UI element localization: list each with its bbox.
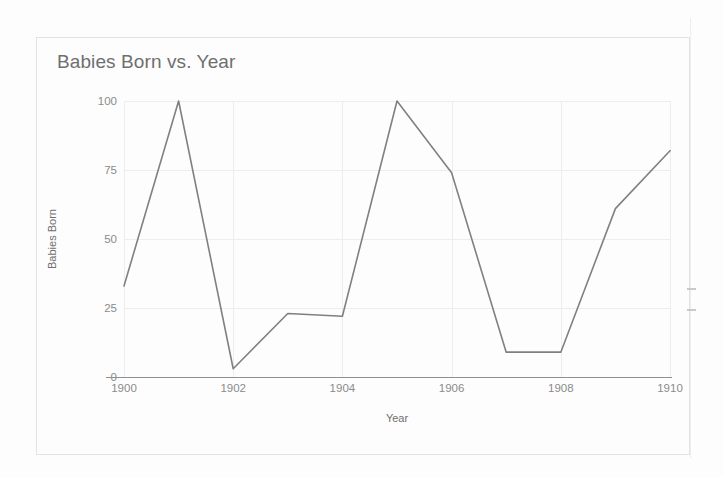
scan-tick-mark <box>687 288 696 290</box>
y-axis-tick-label: 75 <box>104 164 117 176</box>
y-axis-tick-label: 50 <box>104 233 117 245</box>
x-axis-tick-label: 1902 <box>220 382 246 394</box>
x-axis-tick-label: 1910 <box>657 382 683 394</box>
x-axis-title: Year <box>386 412 408 424</box>
y-axis-tick-label: 25 <box>104 302 117 314</box>
y-axis-title: Babies Born <box>46 209 58 269</box>
series-line-babies-born <box>124 101 670 369</box>
x-axis-tick-label: 1908 <box>548 382 574 394</box>
chart-title: Babies Born vs. Year <box>57 51 235 73</box>
plot-area <box>124 101 670 377</box>
scan-margin-rule <box>690 18 691 458</box>
x-axis-tick-labels: 190019021904190619081910 <box>124 382 670 398</box>
x-axis-line <box>106 377 672 378</box>
gridline-vertical <box>670 101 671 377</box>
x-axis-tick-label: 1904 <box>330 382 356 394</box>
y-axis-tick-labels: 0255075100 <box>84 101 117 377</box>
page-background: Babies Born vs. Year 0255075100 19001902… <box>0 0 723 477</box>
x-axis-tick-label: 1906 <box>439 382 465 394</box>
y-axis-tick-label: 100 <box>98 95 117 107</box>
x-axis-tick-label: 1900 <box>111 382 137 394</box>
scan-tick-mark <box>687 309 696 311</box>
series-babies-born <box>124 101 670 377</box>
